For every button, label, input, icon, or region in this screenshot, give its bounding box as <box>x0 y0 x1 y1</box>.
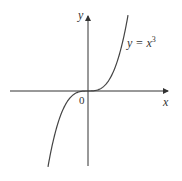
y-axis-label: y <box>77 8 84 22</box>
curve-label: y = x3 <box>126 35 156 50</box>
origin-label: 0 <box>79 94 85 106</box>
cubic-function-graph: y x 0 y = x3 <box>0 0 182 181</box>
plot-area: y x 0 y = x3 <box>0 0 182 181</box>
x-axis-label: x <box>162 95 169 109</box>
